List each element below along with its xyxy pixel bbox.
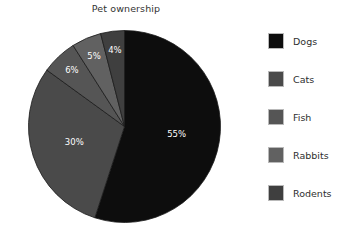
legend-item-dogs[interactable]: Dogs	[268, 33, 346, 71]
legend-item-cats[interactable]: Cats	[268, 71, 346, 109]
legend-swatch-rodents	[268, 185, 284, 201]
pie-slice-value-rodents: 4%	[108, 45, 122, 55]
chart-legend: DogsCatsFishRabbitsRodents	[268, 33, 346, 223]
legend-label-rabbits: Rabbits	[293, 147, 329, 164]
legend-item-rabbits[interactable]: Rabbits	[268, 147, 346, 185]
legend-swatch-rabbits	[268, 147, 284, 163]
legend-swatch-cats	[268, 71, 284, 87]
pie-slice-value-rabbits: 5%	[87, 51, 101, 61]
pie-slice-value-cats: 30%	[65, 137, 84, 147]
pie-slice-value-dogs: 55%	[167, 129, 186, 139]
pie-slice-group	[28, 31, 220, 223]
legend-swatch-fish	[268, 109, 284, 125]
legend-swatch-dogs	[268, 33, 284, 49]
legend-label-cats: Cats	[293, 71, 314, 88]
legend-item-rodents[interactable]: Rodents	[268, 185, 346, 223]
pie-slice-value-fish: 6%	[65, 65, 79, 75]
legend-label-rodents: Rodents	[293, 185, 332, 202]
legend-label-fish: Fish	[293, 109, 311, 126]
legend-item-fish[interactable]: Fish	[268, 109, 346, 147]
pie-chart-figure: Pet ownership 55%30%6%5%4% DogsCatsFishR…	[0, 0, 346, 230]
legend-label-dogs: Dogs	[293, 33, 317, 50]
